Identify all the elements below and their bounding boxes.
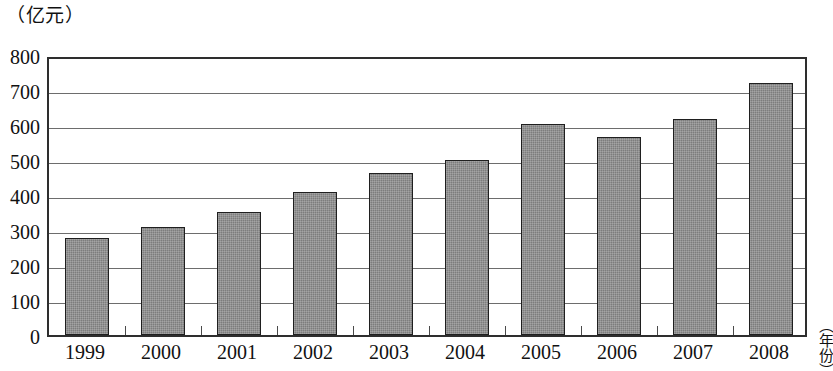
x-axis-tick-mark: [277, 326, 278, 335]
y-axis-tick-label: 200: [0, 257, 40, 277]
x-axis-tick-label: 2000: [123, 341, 199, 363]
x-axis-tick-label: 2004: [427, 341, 503, 363]
bar: [445, 160, 489, 335]
y-axis-tick-label: 500: [0, 152, 40, 172]
gridline: [49, 93, 805, 94]
x-axis-tick-mark: [429, 326, 430, 335]
x-axis-tick-label: 2003: [351, 341, 427, 363]
x-axis-tick-mark: [505, 326, 506, 335]
x-axis-tick-mark: [201, 326, 202, 335]
bar: [293, 192, 337, 335]
x-axis-tick-label: 1999: [47, 341, 123, 363]
plot-area: [47, 57, 807, 337]
x-axis-tick-label: 2001: [199, 341, 275, 363]
x-axis-tick-mark: [125, 326, 126, 335]
x-axis-tick-label: 2002: [275, 341, 351, 363]
x-axis-tick-mark: [353, 326, 354, 335]
x-axis-tick-label: 2008: [731, 341, 807, 363]
bar: [65, 238, 109, 335]
y-axis-tick-label: 800: [0, 47, 40, 67]
x-axis-tick-label: 2007: [655, 341, 731, 363]
y-axis-tick-label: 700: [0, 82, 40, 102]
x-axis-tick-mark: [733, 326, 734, 335]
bar: [369, 173, 413, 335]
bar: [749, 83, 793, 335]
bar: [673, 119, 717, 335]
x-axis-tick-mark: [581, 326, 582, 335]
bar: [217, 212, 261, 335]
bar: [521, 124, 565, 335]
y-axis-tick-label: 400: [0, 187, 40, 207]
y-axis-tick-label: 600: [0, 117, 40, 137]
x-axis-title: （年份）: [810, 318, 832, 371]
x-axis-tick-mark: [657, 326, 658, 335]
y-axis-tick-label: 0: [0, 327, 40, 347]
x-axis-tick-label: 2006: [579, 341, 655, 363]
y-axis-tick-label: 300: [0, 222, 40, 242]
x-axis-tick-label: 2005: [503, 341, 579, 363]
bar: [141, 227, 185, 336]
y-axis-unit-label: （亿元）: [6, 4, 84, 28]
y-axis-tick-label: 100: [0, 292, 40, 312]
bar: [597, 137, 641, 335]
